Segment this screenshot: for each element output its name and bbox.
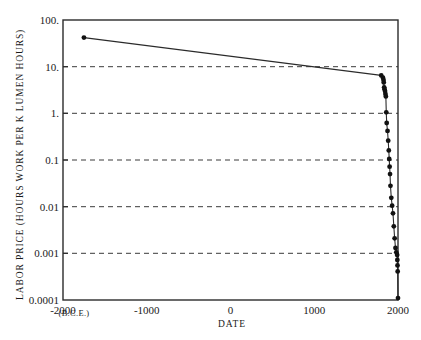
y-tick-label: 100.	[40, 14, 60, 26]
data-point	[391, 224, 396, 229]
data-point	[387, 164, 392, 169]
data-point	[386, 138, 391, 143]
data-point	[392, 236, 397, 241]
bce-note: (B.C.E.)	[59, 308, 90, 318]
y-axis-title: LABOR PRICE (HOURS WORK PER K LUMEN HOUR…	[15, 29, 26, 300]
data-point	[396, 296, 401, 301]
y-tick-labels: 100.10.1.0.10.010.0010.0001	[29, 14, 60, 306]
x-tick-label: -1000	[134, 304, 160, 316]
data-point	[388, 183, 393, 188]
data-point	[381, 80, 386, 85]
y-tick-label: 0.01	[40, 201, 59, 213]
data-point	[389, 195, 394, 200]
data-point	[384, 110, 389, 115]
data-point	[384, 121, 389, 126]
x-tick-labels: -2000-1000010002000	[50, 304, 409, 316]
data-point	[391, 211, 396, 216]
data-point	[388, 172, 393, 177]
data-point	[395, 263, 400, 268]
data-point	[385, 129, 390, 134]
data-point	[393, 246, 398, 251]
data-point	[387, 157, 392, 162]
labor-price-of-light-chart: 100.10.1.0.10.010.0010.0001 -2000-100001…	[0, 0, 421, 340]
y-tick-label: 0.1	[45, 154, 59, 166]
x-axis-title: DATE	[218, 319, 246, 329]
x-tick-label: 1000	[303, 304, 326, 316]
data-point	[390, 203, 395, 208]
x-tick-label: 0	[228, 304, 234, 316]
y-tick-label: 0.001	[34, 247, 59, 259]
data-point	[383, 94, 388, 99]
data-point	[386, 148, 391, 153]
data-point	[395, 253, 400, 258]
plot-background	[63, 20, 398, 300]
y-tick-label: 10.	[45, 61, 59, 73]
y-tick-label: 1.	[51, 107, 60, 119]
data-point	[82, 35, 87, 40]
data-point	[395, 258, 400, 263]
data-point	[395, 269, 400, 274]
chart-figure: 100.10.1.0.10.010.0010.0001 -2000-100001…	[0, 0, 421, 340]
x-tick-label: 2000	[387, 304, 410, 316]
